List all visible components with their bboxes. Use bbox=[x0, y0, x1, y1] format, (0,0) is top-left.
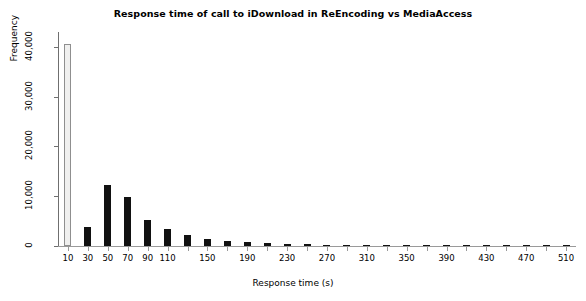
x-axis-label: Response time (s) bbox=[0, 278, 586, 288]
x-tick bbox=[68, 247, 69, 251]
y-axis-line bbox=[58, 32, 59, 247]
histogram-bar bbox=[463, 245, 470, 247]
x-tick bbox=[407, 247, 408, 251]
histogram-bar bbox=[104, 185, 111, 246]
histogram-bar bbox=[503, 245, 510, 247]
y-axis-label: Frequency bbox=[9, 15, 19, 105]
x-tick bbox=[168, 247, 169, 251]
x-tick bbox=[546, 247, 547, 251]
y-tick-label: 0 bbox=[24, 222, 34, 268]
histogram-bar bbox=[84, 227, 91, 246]
x-tick bbox=[566, 247, 567, 251]
x-tick-label: 510 bbox=[551, 253, 581, 263]
histogram-bar bbox=[224, 241, 231, 246]
x-tick bbox=[148, 247, 149, 251]
y-axis-label-text: Frequency bbox=[9, 15, 19, 62]
y-tick bbox=[54, 97, 58, 98]
histogram-bar bbox=[64, 44, 71, 246]
y-tick-label: 20,000 bbox=[24, 122, 34, 168]
x-tick bbox=[207, 247, 208, 251]
x-tick bbox=[506, 247, 507, 251]
histogram-bar bbox=[423, 245, 430, 247]
y-tick-label: 30,000 bbox=[24, 73, 34, 119]
chart-title: Response time of call to iDownload in Re… bbox=[0, 8, 586, 19]
histogram-bar bbox=[523, 245, 530, 247]
histogram-bar bbox=[443, 245, 450, 247]
histogram-bar bbox=[284, 244, 291, 246]
x-tick bbox=[347, 247, 348, 251]
x-tick-label: 390 bbox=[432, 253, 462, 263]
x-tick bbox=[108, 247, 109, 251]
x-tick-label: 270 bbox=[312, 253, 342, 263]
x-tick bbox=[267, 247, 268, 251]
histogram-bar bbox=[543, 245, 550, 247]
histogram-bar bbox=[144, 220, 151, 246]
histogram-bar bbox=[483, 245, 490, 247]
histogram-chart: Response time of call to iDownload in Re… bbox=[0, 0, 586, 301]
x-tick bbox=[247, 247, 248, 251]
y-tick bbox=[54, 146, 58, 147]
histogram-bar bbox=[244, 242, 251, 246]
histogram-bar bbox=[383, 245, 390, 247]
histogram-bar bbox=[323, 245, 330, 247]
x-tick bbox=[188, 247, 189, 251]
histogram-bar bbox=[124, 197, 131, 246]
y-tick bbox=[54, 196, 58, 197]
histogram-bar bbox=[264, 243, 271, 246]
x-tick bbox=[387, 247, 388, 251]
histogram-bar bbox=[184, 235, 191, 246]
x-tick bbox=[466, 247, 467, 251]
x-tick bbox=[367, 247, 368, 251]
x-tick bbox=[128, 247, 129, 251]
histogram-bar bbox=[164, 229, 171, 246]
x-tick bbox=[287, 247, 288, 251]
x-tick-label: 230 bbox=[272, 253, 302, 263]
x-tick bbox=[447, 247, 448, 251]
x-tick-label: 190 bbox=[232, 253, 262, 263]
x-tick bbox=[227, 247, 228, 251]
x-axis-line bbox=[58, 246, 576, 247]
x-tick bbox=[486, 247, 487, 251]
x-tick bbox=[88, 247, 89, 251]
histogram-bar bbox=[563, 245, 570, 247]
histogram-bar bbox=[403, 245, 410, 247]
histogram-bar bbox=[304, 244, 311, 246]
x-tick-label: 110 bbox=[153, 253, 183, 263]
x-tick-label: 150 bbox=[192, 253, 222, 263]
x-tick-label: 430 bbox=[471, 253, 501, 263]
x-tick bbox=[526, 247, 527, 251]
y-tick-label: 10,000 bbox=[24, 172, 34, 218]
x-tick-label: 310 bbox=[352, 253, 382, 263]
histogram-bar bbox=[363, 245, 370, 247]
x-tick-label: 350 bbox=[392, 253, 422, 263]
y-tick-label: 40,000 bbox=[24, 23, 34, 69]
plot-area: 010,00020,00030,00040,000 10305070901101… bbox=[58, 32, 576, 247]
x-tick bbox=[327, 247, 328, 251]
y-tick bbox=[54, 47, 58, 48]
histogram-bar bbox=[343, 245, 350, 247]
histogram-bar bbox=[204, 239, 211, 246]
y-tick bbox=[54, 246, 58, 247]
x-tick bbox=[427, 247, 428, 251]
x-tick bbox=[307, 247, 308, 251]
x-tick-label: 470 bbox=[511, 253, 541, 263]
